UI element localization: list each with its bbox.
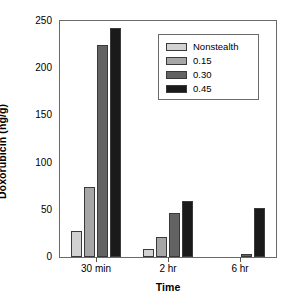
- bar-group: [71, 21, 121, 257]
- legend-label: 0.15: [193, 56, 212, 66]
- x-tick-mark: [96, 257, 97, 262]
- x-axis-tick-labels: 30 min2 hr6 hr: [60, 264, 276, 278]
- y-axis-title: Doxorubicin (ng/g): [0, 0, 22, 303]
- y-tick-label: 250: [22, 16, 52, 26]
- x-tick-label: 6 hr: [231, 264, 248, 274]
- legend-label: Nonstealth: [193, 42, 238, 52]
- y-axis-ticks: 050100150200250: [22, 12, 52, 267]
- y-tick-label: 50: [22, 205, 52, 215]
- y-tick-label: 200: [22, 63, 52, 73]
- legend-item: 0.30: [166, 68, 258, 82]
- y-tick-label: 100: [22, 158, 52, 168]
- x-tick-label: 30 min: [81, 264, 111, 274]
- bar: [254, 208, 265, 257]
- bar: [182, 201, 193, 257]
- legend-label: 0.45: [193, 84, 212, 94]
- bar: [97, 45, 108, 257]
- x-tick-label: 2 hr: [159, 264, 176, 274]
- y-tick-label: 0: [22, 252, 52, 262]
- bar: [143, 249, 154, 257]
- y-tick-label: 150: [22, 110, 52, 120]
- legend-swatch: [166, 85, 187, 93]
- legend-item: 0.15: [166, 54, 258, 68]
- bar: [71, 231, 82, 257]
- legend-swatch: [166, 71, 187, 79]
- legend-item: 0.45: [166, 82, 258, 96]
- x-tick-mark: [168, 257, 169, 262]
- x-axis-title: Time: [59, 281, 277, 293]
- legend-swatch: [166, 57, 187, 65]
- x-tick-mark: [240, 257, 241, 262]
- bar: [110, 28, 121, 257]
- bar: [84, 187, 95, 257]
- figure-canvas: Doxorubicin (ng/g) 050100150200250 30 mi…: [0, 0, 297, 303]
- bar: [156, 237, 167, 257]
- chart-legend: Nonstealth0.150.300.45: [158, 34, 259, 100]
- bar: [169, 213, 180, 257]
- legend-label: 0.30: [193, 70, 212, 80]
- legend-swatch: [166, 43, 187, 51]
- legend-item: Nonstealth: [166, 40, 258, 54]
